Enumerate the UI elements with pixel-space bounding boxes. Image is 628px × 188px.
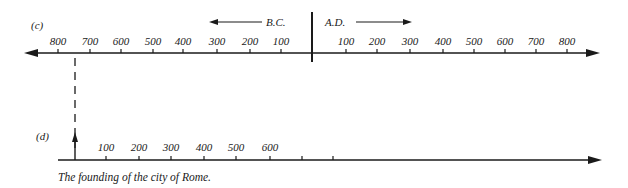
tick-label: 100 <box>338 35 355 47</box>
tick-label: 400 <box>196 141 213 153</box>
tick-label: 200 <box>131 141 148 153</box>
timeline-c-axis <box>24 12 600 62</box>
up-arrow-icon <box>72 132 78 142</box>
tick-label: 500 <box>228 141 245 153</box>
bc-label: B.C. <box>266 16 286 28</box>
tick-label: 500 <box>466 35 483 47</box>
tick-label: 700 <box>528 35 545 47</box>
timeline-d-ticks: 100200300400500600 <box>98 141 333 160</box>
tick-label: 500 <box>145 35 162 47</box>
right-arrowhead-icon <box>588 156 602 164</box>
label-c: (c) <box>31 19 44 32</box>
ad-label: A.D. <box>324 16 345 28</box>
bc-arrow-icon <box>209 19 262 25</box>
tick-label: 600 <box>497 35 514 47</box>
tick-label: 100 <box>98 141 115 153</box>
ad-arrow-icon <box>356 19 412 25</box>
left-arrowhead-icon <box>24 49 38 57</box>
tick-label: 800 <box>50 35 67 47</box>
tick-label: 200 <box>369 35 386 47</box>
tick-label: 600 <box>262 141 279 153</box>
tick-label: 800 <box>559 35 576 47</box>
tick-label: 300 <box>162 141 180 153</box>
tick-label: 300 <box>401 35 419 47</box>
tick-label: 600 <box>113 35 130 47</box>
timeline-diagram: (c) B.C. A.D. 80070060050040030020010010… <box>0 0 628 188</box>
tick-label: 100 <box>273 35 290 47</box>
tick-label: 400 <box>175 35 192 47</box>
label-d: (d) <box>36 130 49 143</box>
tick-label: 700 <box>82 35 99 47</box>
tick-label: 300 <box>208 35 226 47</box>
right-arrowhead-icon <box>586 49 600 57</box>
caption: The founding of the city of Rome. <box>58 171 211 184</box>
tick-label: 400 <box>435 35 452 47</box>
tick-label: 200 <box>242 35 259 47</box>
